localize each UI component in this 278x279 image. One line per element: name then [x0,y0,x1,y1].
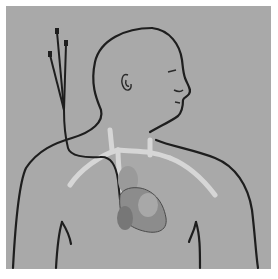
catheter-diagram [0,0,278,279]
body-outline [13,28,258,268]
catheter-line [50,32,120,200]
face-features [168,70,183,103]
great-vessels [70,130,215,195]
heart [117,166,166,232]
ear [122,74,131,90]
